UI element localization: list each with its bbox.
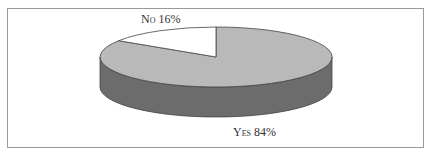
pie-chart xyxy=(0,0,430,154)
label-no: No 16% xyxy=(141,12,180,27)
label-yes: Yes 84% xyxy=(233,125,276,140)
label-yes-name: Yes xyxy=(233,125,251,139)
label-yes-value: 84% xyxy=(254,125,276,139)
label-no-name: No xyxy=(141,12,155,26)
label-no-value: 16% xyxy=(158,12,180,26)
